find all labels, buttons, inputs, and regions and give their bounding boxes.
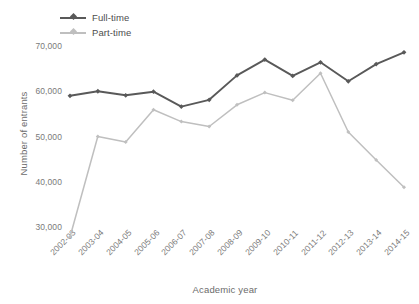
series-line-part-time [70,73,404,237]
data-point-marker [95,89,100,94]
data-point-marker [68,235,72,239]
series-line-full-time [70,52,404,106]
data-point-marker [68,93,73,98]
line-chart: Full-time Part-time Number of entrants A… [0,0,419,304]
data-point-marker [123,93,128,98]
plot-area [0,0,419,304]
data-point-marker [96,135,100,139]
